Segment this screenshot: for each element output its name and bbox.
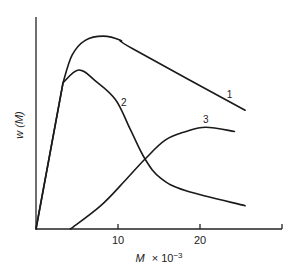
x-axis-label: M × 10−3 [135,251,183,264]
x-tick-label: 20 [194,234,206,246]
curve-label-1: 1 [227,89,233,100]
x-ticks: 1020 [112,224,282,246]
curves [36,36,245,229]
x-tick-label: 10 [112,234,124,246]
curve-3 [70,127,234,229]
y-axis-label: w (M) [13,111,25,139]
molecular-weight-distribution-chart: 1020 123 w (M) M × 10−3 [0,0,293,273]
curve-label-3: 3 [203,114,209,125]
axes: 1020 [36,17,282,246]
curve-label-2: 2 [121,97,127,108]
curve-1 [36,36,245,229]
